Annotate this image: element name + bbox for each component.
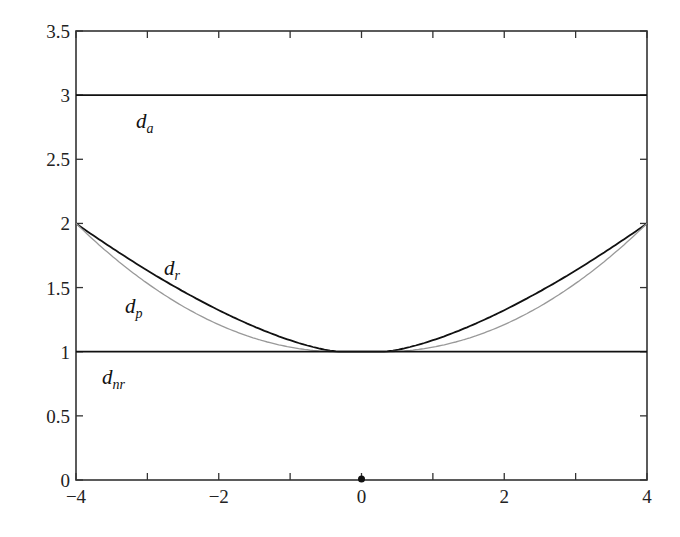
x-tick-label: −2 (209, 486, 229, 507)
curve-labels: dadrdpdnr (102, 109, 181, 392)
plot-frame (76, 31, 647, 480)
y-tick-label: 1 (61, 342, 71, 363)
x-tick-label: 2 (500, 486, 510, 507)
origin-dot (358, 476, 365, 483)
label-d-a: da (136, 109, 154, 136)
x-tick-label: 4 (642, 486, 652, 507)
y-tick-label: 2 (61, 213, 71, 234)
curve-d-r (76, 223, 647, 351)
line-chart: −4−202400.511.522.533.5 dadrdpdnr (0, 0, 680, 537)
y-tick-label: 1.5 (46, 278, 70, 299)
curve-d-p (76, 223, 647, 351)
label-d-nr: dnr (102, 365, 126, 392)
y-tick-label: 0.5 (46, 406, 70, 427)
y-tick-label: 2.5 (46, 149, 70, 170)
label-d-r: dr (164, 256, 181, 283)
curves (76, 95, 647, 482)
y-tick-label: 3 (61, 85, 71, 106)
label-d-p: dp (125, 294, 143, 321)
x-tick-label: 0 (357, 486, 367, 507)
y-tick-label: 3.5 (46, 21, 70, 42)
y-tick-label: 0 (61, 470, 71, 491)
